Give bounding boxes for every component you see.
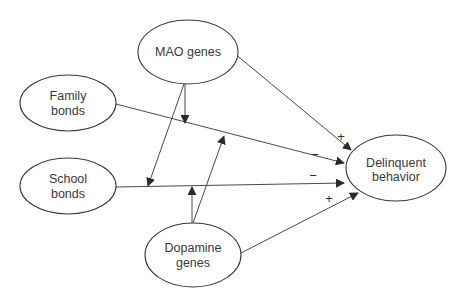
node-delinquent-behavior-label-line1: Delinquent (366, 156, 426, 170)
node-mao-genes: MAO genes (138, 20, 238, 84)
sign-school-delinquent: − (309, 168, 317, 183)
sign-dopamine-delinquent: + (325, 191, 333, 206)
node-family-bonds: Family bonds (20, 75, 116, 131)
node-delinquent-behavior: Delinquent behavior (346, 135, 446, 201)
node-school-bonds: School bonds (20, 158, 116, 214)
node-dopamine-genes-label-line2: genes (176, 256, 210, 270)
sign-family-delinquent: − (311, 147, 319, 162)
node-delinquent-behavior-label-line2: behavior (372, 170, 420, 184)
node-mao-genes-label: MAO genes (155, 45, 221, 59)
node-dopamine-genes: Dopamine genes (145, 223, 241, 287)
edge-mao-moderates-school-path (148, 84, 184, 186)
sign-mao-delinquent: + (337, 129, 345, 144)
node-family-bonds-label-line1: Family (50, 89, 88, 103)
node-school-bonds-label-line1: School (49, 172, 87, 186)
edge-school-to-delinquent (116, 183, 344, 187)
edge-mao-to-delinquent (234, 53, 351, 150)
edge-dopamine-moderates-family-path (193, 136, 224, 223)
edge-family-to-delinquent (116, 104, 344, 163)
node-school-bonds-label-line2: bonds (51, 187, 85, 201)
edge-dopamine-to-delinquent (241, 193, 358, 253)
node-dopamine-genes-label-line1: Dopamine (165, 241, 222, 255)
node-family-bonds-label-line2: bonds (51, 104, 85, 118)
path-diagram: MAO genes Family bonds School bonds Dopa… (0, 0, 460, 297)
